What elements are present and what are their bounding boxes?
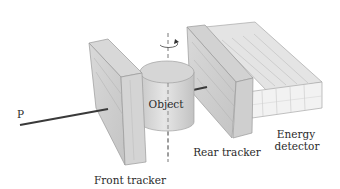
energy-detector-label-line1: Energy [277, 129, 315, 140]
object-label: Object [149, 99, 184, 110]
front-tracker-label: Front tracker [94, 175, 166, 186]
diagram-canvas: P Object Front tracker Rear tracker Ener… [0, 0, 340, 189]
energy-detector-label-line2: detector [275, 141, 320, 152]
object-cylinder [140, 61, 194, 131]
front-tracker [89, 39, 146, 165]
rear-tracker-label: Rear tracker [193, 147, 261, 158]
rotation-arrow-icon [160, 39, 179, 48]
beam-line [20, 109, 108, 125]
beam-label: P [17, 109, 24, 120]
diagram-svg [0, 0, 340, 189]
